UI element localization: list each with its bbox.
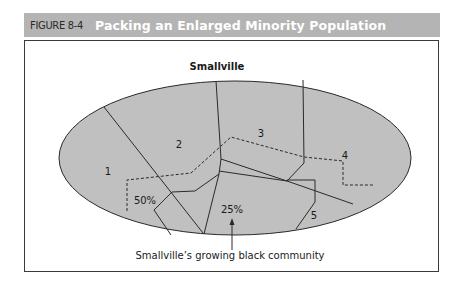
city-name-label: Smallville bbox=[190, 61, 245, 72]
districting-map: Smallville 1 2 3 4 5 50% 25% Smallville’… bbox=[0, 0, 462, 287]
district-label-2: 2 bbox=[176, 139, 182, 150]
district-label-5: 5 bbox=[311, 210, 317, 221]
percent-label-50: 50% bbox=[134, 195, 156, 206]
district-label-3: 3 bbox=[258, 128, 264, 139]
district-label-1: 1 bbox=[105, 166, 111, 177]
annotation-label: Smallville’s growing black community bbox=[135, 250, 324, 261]
district-label-4: 4 bbox=[342, 150, 348, 161]
percent-label-25: 25% bbox=[221, 204, 243, 215]
